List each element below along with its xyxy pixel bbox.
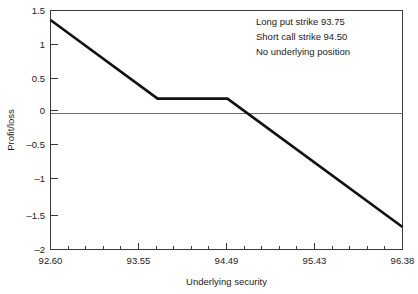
x-tick-label: 96.38 <box>391 255 415 266</box>
annotation-block: Long put strike 93.75 Short call strike … <box>256 16 350 57</box>
x-tick-label: 95.43 <box>303 255 327 266</box>
y-tick-marks <box>51 11 58 250</box>
annotation-line-2: Short call strike 94.50 <box>256 31 347 42</box>
x-tick-label: 92.60 <box>39 255 63 266</box>
y-tick-label: 0 <box>40 105 45 116</box>
y-tick-label: –0.5 <box>27 139 46 150</box>
y-tick-label: –2 <box>34 244 45 255</box>
y-tick-label: 1.5 <box>32 5 45 16</box>
y-tick-labels: 1.5 1 0.5 0 –0.5 –1 –1.5 –2 <box>27 5 46 255</box>
x-axis-title: Underlying security <box>186 276 267 287</box>
y-tick-label: –1 <box>34 173 45 184</box>
x-tick-label: 94.49 <box>215 255 239 266</box>
chart-canvas: 1.5 1 0.5 0 –0.5 –1 –1.5 –2 92.60 93.55 … <box>0 0 418 294</box>
y-tick-label: 0.5 <box>32 73 45 84</box>
y-tick-label: –1.5 <box>27 210 46 221</box>
annotation-line-1: Long put strike 93.75 <box>256 16 345 27</box>
x-tick-labels: 92.60 93.55 94.49 95.43 96.38 <box>39 255 415 266</box>
y-axis-title: Profit/loss <box>5 109 16 151</box>
y-tick-label: 1 <box>40 39 45 50</box>
payoff-chart-figure: 1.5 1 0.5 0 –0.5 –1 –1.5 –2 92.60 93.55 … <box>0 0 418 294</box>
annotation-line-3: No underlying position <box>256 46 350 57</box>
x-tick-label: 93.55 <box>127 255 151 266</box>
